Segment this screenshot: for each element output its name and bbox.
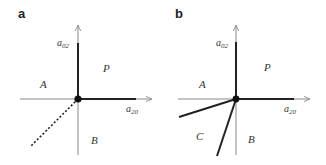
region-b: B	[91, 134, 98, 146]
region-p: P	[102, 62, 110, 74]
region-a: A	[39, 78, 47, 90]
region-a: A	[198, 78, 206, 90]
region-p: P	[263, 61, 271, 73]
boundary-a-c	[179, 99, 236, 117]
x-axis-label: a20	[126, 103, 139, 116]
region-c: C	[196, 130, 204, 142]
origin-point	[74, 95, 81, 102]
y-axis-label: a02	[216, 37, 229, 50]
region-b: B	[248, 133, 255, 145]
panel-b: b a02 a20 P A C B	[175, 6, 310, 156]
x-axis-label: a20	[284, 103, 297, 116]
origin-point	[233, 96, 240, 103]
boundary-c-b	[217, 99, 236, 156]
boundary-a-b-dotted	[30, 99, 78, 147]
figure: a a02 a20 P A B b a02 a20 P A C B	[0, 0, 326, 165]
panel-a: a a02 a20 P A B	[18, 6, 152, 155]
panel-label-a: a	[18, 6, 26, 21]
panel-label-b: b	[175, 6, 183, 21]
y-axis-label: a02	[57, 37, 70, 50]
